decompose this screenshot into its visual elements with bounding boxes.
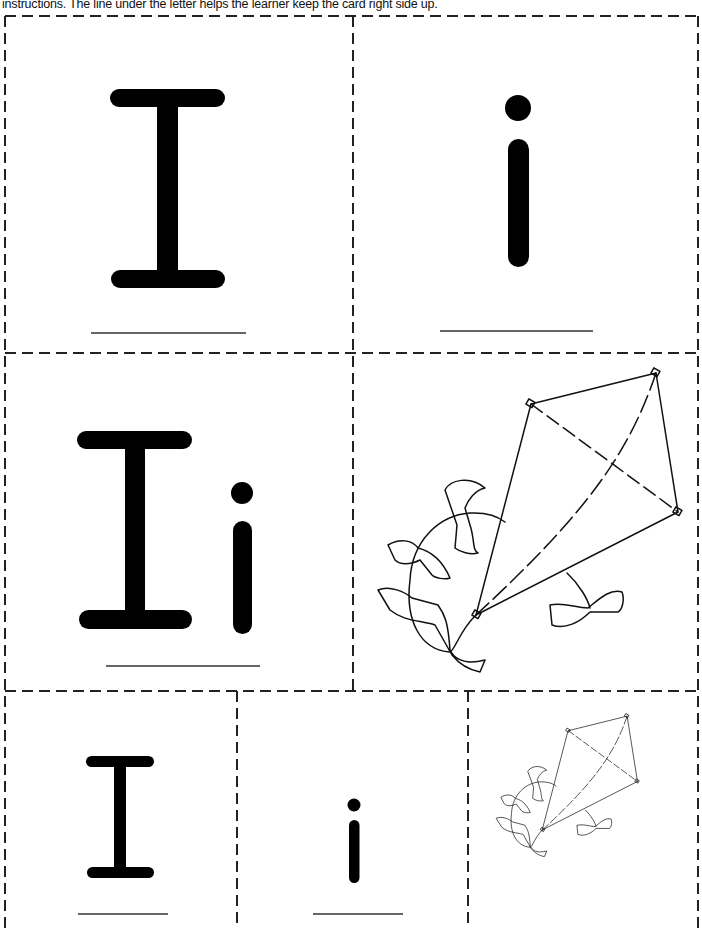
card-combo-large: [77, 431, 260, 666]
letter-lowercase-i: [348, 799, 361, 884]
letter-lowercase-i: [231, 482, 253, 634]
card-kite-large: [378, 368, 682, 672]
kite-icon: [496, 714, 639, 857]
flashcard-sheet: [0, 0, 702, 928]
letter-uppercase-i: [110, 89, 225, 288]
letter-uppercase-i: [77, 431, 192, 629]
card-uppercase-large: [91, 89, 246, 333]
card-lowercase-large: [440, 95, 593, 331]
card-kite-small: [496, 714, 639, 857]
kite-icon: [378, 368, 682, 672]
card-uppercase-small: [78, 756, 168, 914]
letter-lowercase-i: [505, 95, 531, 267]
cut-lines: [5, 16, 698, 928]
card-lowercase-small: [313, 799, 403, 915]
letter-uppercase-i: [86, 756, 154, 878]
